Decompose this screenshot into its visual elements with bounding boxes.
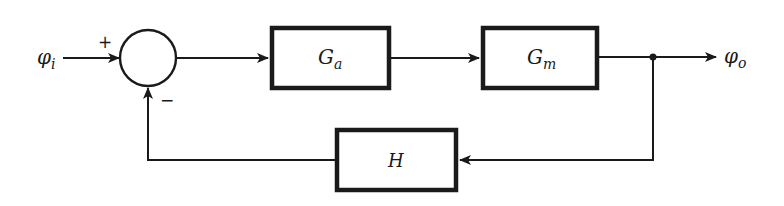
output-label: φo [724,44,746,71]
block-ga-subscript: a [334,56,342,72]
output-subscript: o [738,55,746,71]
input-subscript: i [51,56,55,72]
plus-sign: + [98,32,112,52]
output-symbol: φ [724,44,738,68]
block-ga-symbol: G [318,45,334,69]
block-diagram: φi + − Ga Gm φo H [0,0,784,206]
minus-sign: − [160,90,174,110]
input-symbol: φ [37,45,51,69]
block-ga: Ga [272,28,389,88]
block-gm: Gm [483,28,597,88]
summing-junction [120,30,176,86]
block-h-symbol: H [387,150,404,171]
svg-text:H: H [387,150,404,171]
block-gm-subscript: m [543,56,556,72]
block-h: H [337,130,456,190]
feedback-path-to-sum [148,88,335,160]
svg-text:φi: φi [37,45,56,72]
block-gm-symbol: G [527,45,543,69]
svg-text:φo: φo [724,44,746,71]
input-label: φi [37,45,56,72]
